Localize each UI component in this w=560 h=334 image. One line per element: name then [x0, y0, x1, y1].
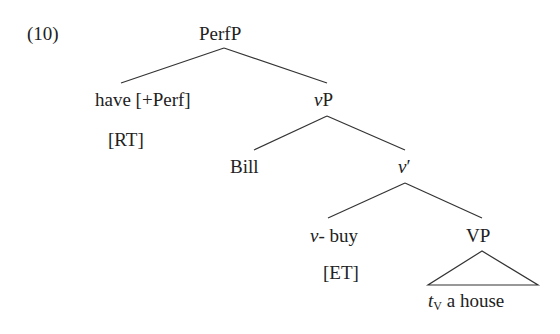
branch-vp-vbar: [327, 116, 405, 150]
node-vbuy-rest: - buy: [318, 225, 358, 246]
node-vbuy: v- buy: [310, 226, 358, 245]
example-number: (10): [27, 24, 59, 43]
node-rt: [RT]: [108, 130, 144, 149]
branch-vp-bill: [254, 116, 327, 150]
node-have: have [+Perf]: [95, 90, 191, 109]
tree-branches: [0, 0, 560, 334]
node-trace: tV a house: [428, 291, 504, 312]
branch-vbar-VP: [405, 183, 482, 218]
node-bill: Bill: [230, 157, 259, 176]
trace-sub: V: [433, 299, 442, 313]
node-perfp: PerfP: [199, 24, 241, 43]
branch-vbar-vbuy: [328, 183, 405, 218]
VP-triangle: [428, 251, 538, 285]
node-vbar-prime: ′: [406, 156, 410, 177]
node-vbar: v′: [398, 157, 411, 176]
trace-rest: a house: [442, 290, 504, 311]
node-et: [ET]: [323, 263, 359, 282]
branch-perfp-have: [121, 48, 224, 83]
branch-perfp-vp: [224, 48, 327, 83]
node-vp: vP: [314, 90, 333, 109]
node-vp-p: P: [322, 89, 333, 110]
node-VP: VP: [466, 226, 490, 245]
